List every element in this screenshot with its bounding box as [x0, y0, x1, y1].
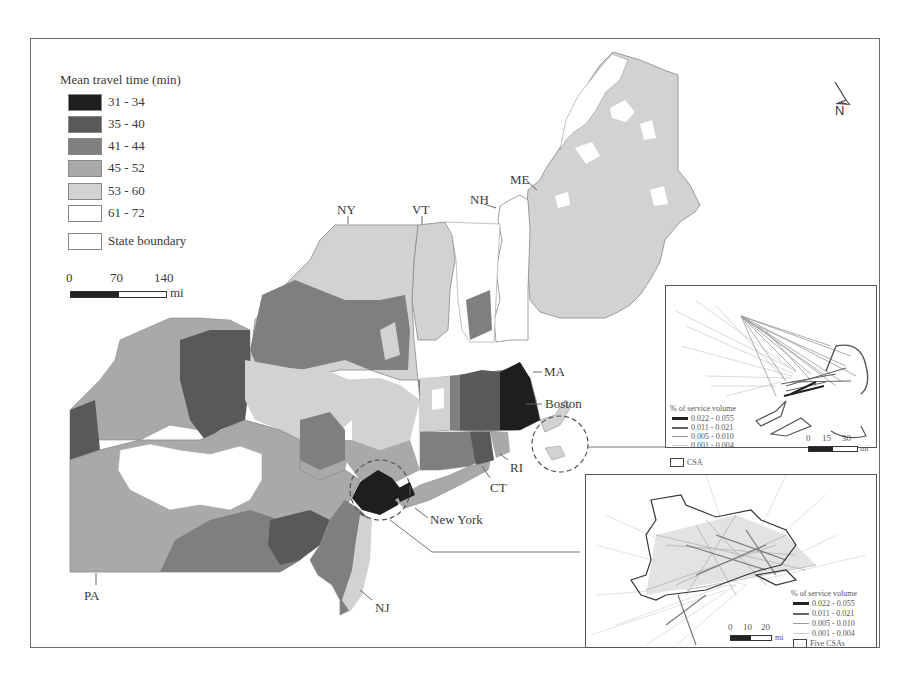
scale-bar-graphic [808, 446, 858, 452]
inset-legend-title: % of service volume [791, 589, 857, 598]
inset-boston: % of service volume 0.022 - 0.055 0.011 … [665, 285, 877, 448]
legend-item-35-40: 35 - 40 [68, 116, 145, 132]
label-ma: MA [544, 364, 565, 380]
inset-legend-label: 0.011 - 0.021 [812, 609, 854, 618]
inset-legend-item: 0.005 - 0.010 [793, 619, 855, 628]
inset-newyork: % of service volume 0.022 - 0.055 0.011 … [585, 474, 877, 648]
scale-tick: 10 [743, 622, 752, 632]
label-ct: CT [490, 480, 507, 496]
legend-swatch [68, 116, 102, 133]
legend-label: 45 - 52 [108, 160, 145, 176]
inset-legend-label: 0.001 - 0.004 [812, 629, 855, 638]
scale-tick: 20 [761, 622, 770, 632]
legend-label: 41 - 44 [108, 138, 145, 154]
legend-swatch [68, 160, 102, 177]
inset-legend-title: % of service volume [670, 404, 736, 413]
label-boston: Boston [545, 396, 582, 412]
legend-item-61-72: 61 - 72 [68, 205, 145, 221]
scale-tick: 70 [110, 270, 123, 286]
region-maine [525, 52, 700, 318]
inset-legend-label: 0.005 - 0.010 [691, 432, 734, 441]
legend-item-31-34: 31 - 34 [68, 94, 145, 110]
inset-legend-label: 0.022 - 0.055 [812, 599, 855, 608]
region-vermont [412, 222, 455, 340]
legend-label: 61 - 72 [108, 205, 145, 221]
inset-legend-item: 0.022 - 0.055 [672, 414, 734, 423]
scale-bar-graphic [730, 635, 772, 641]
scale-tick: 0 [728, 622, 733, 632]
scale-bar-graphic [70, 291, 167, 298]
label-ny: NY [337, 202, 356, 218]
legend-swatch [68, 183, 102, 200]
legend-swatch [68, 138, 102, 155]
inset-legend-item: 0.001 - 0.004 [672, 441, 734, 448]
label-nh: NH [470, 192, 489, 208]
scale-unit: mi [860, 444, 868, 453]
inset-area-label: Five CSAs [810, 639, 845, 648]
inset-legend-item: 0.001 - 0.004 [793, 629, 855, 638]
inset-legend-item: 0.005 - 0.010 [672, 432, 734, 441]
inset-legend-label: 0.022 - 0.055 [691, 414, 734, 423]
scale-unit: mi [775, 633, 783, 642]
legend-item-45-52: 45 - 52 [68, 160, 145, 176]
inset-legend-label: 0.001 - 0.004 [691, 441, 734, 448]
label-nj: NJ [375, 600, 389, 616]
legend-title: Mean travel time (min) [60, 72, 181, 88]
legend-swatch [68, 94, 102, 111]
label-new-york: New York [430, 512, 483, 528]
scale-tick: 30 [842, 433, 851, 443]
inset-area-label: CSA [687, 458, 703, 467]
label-vt: VT [412, 202, 429, 218]
scale-tick: 0 [806, 433, 811, 443]
scale-tick: 140 [154, 270, 174, 286]
inset-legend-item: 0.011 - 0.021 [793, 609, 854, 618]
legend-label: 53 - 60 [108, 183, 145, 199]
inset-newyork-area-legend: Five CSAs [793, 639, 845, 648]
inset-legend-label: 0.011 - 0.021 [691, 423, 733, 432]
legend-label: State boundary [108, 233, 186, 249]
label-pa: PA [84, 588, 99, 604]
scale-tick: 15 [822, 433, 831, 443]
region-new-hampshire [494, 195, 530, 342]
legend-item-53-60: 53 - 60 [68, 183, 145, 199]
legend-swatch [68, 233, 102, 250]
label-me: ME [510, 172, 530, 188]
inset-legend-label: 0.005 - 0.010 [812, 619, 855, 628]
inset-boston-area-legend: CSA [670, 458, 703, 467]
label-ri: RI [510, 460, 523, 476]
scale-tick: 0 [66, 270, 73, 286]
inset-legend-item: 0.022 - 0.055 [793, 599, 855, 608]
legend-swatch [68, 205, 102, 222]
scale-unit: mi [170, 285, 184, 301]
inset-legend-item: 0.011 - 0.021 [672, 423, 733, 432]
legend-item-41-44: 41 - 44 [68, 138, 145, 154]
north-label: N [835, 103, 844, 118]
legend-item-state-boundary: State boundary [68, 233, 186, 249]
legend-label: 31 - 34 [108, 94, 145, 110]
legend-label: 35 - 40 [108, 116, 145, 132]
